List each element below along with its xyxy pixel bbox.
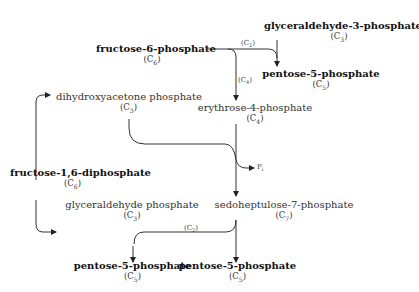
carbon-count: (C7)	[214, 210, 354, 224]
node-name: pentose-5-phosphate	[175, 260, 300, 271]
node-glyceraldehyde-phosphate: glyceraldehyde phosphate (C3)	[62, 199, 202, 224]
node-sedoheptulose-7-phosphate: sedoheptulose-7-phosphate (C7)	[214, 199, 354, 224]
carbon-count: (C5)	[175, 271, 300, 285]
node-erythrose-4-phosphate: erythrose-4-phosphate (C4)	[190, 102, 320, 127]
edge-label-c2-bottom: (C2)	[184, 224, 198, 233]
node-name: dihydroxyacetone phosphate	[56, 91, 201, 102]
node-fructose-6-phosphate: fructose-6-phosphate (C6)	[96, 43, 208, 68]
carbon-count: (C5)	[262, 79, 380, 93]
node-dihydroxyacetone-phosphate: dihydroxyacetone phosphate (C3)	[56, 91, 201, 116]
carbon-count: (C4)	[190, 113, 320, 127]
carbon-count: (C3)	[62, 210, 202, 224]
node-glyceraldehyde-3-phosphate: glyceraldehyde-3-phosphate (C3)	[264, 20, 414, 45]
carbon-count: (C6)	[10, 178, 135, 192]
node-name: pentose-5-phosphate	[262, 68, 380, 79]
carbon-count: (C3)	[264, 31, 414, 45]
edge-label-c4: (C4)	[238, 76, 252, 85]
edge-label-c2-top: (C2)	[241, 39, 255, 48]
carbon-count: (C6)	[96, 54, 208, 68]
node-name: fructose-6-phosphate	[96, 43, 208, 54]
node-pentose-5-phosphate-top: pentose-5-phosphate (C5)	[262, 68, 380, 93]
edge-label-pi: Pi	[257, 163, 263, 172]
node-name: fructose-1,6-diphosphate	[10, 167, 135, 178]
node-name: glyceraldehyde phosphate	[62, 199, 202, 210]
node-name: sedoheptulose-7-phosphate	[214, 199, 354, 210]
node-fructose-1-6-diphosphate: fructose-1,6-diphosphate (C6)	[10, 167, 135, 192]
node-pentose-5-phosphate-right: pentose-5-phosphate (C5)	[175, 260, 300, 285]
carbon-count: (C3)	[56, 102, 201, 116]
node-name: glyceraldehyde-3-phosphate	[264, 20, 414, 31]
node-name: erythrose-4-phosphate	[190, 102, 320, 113]
